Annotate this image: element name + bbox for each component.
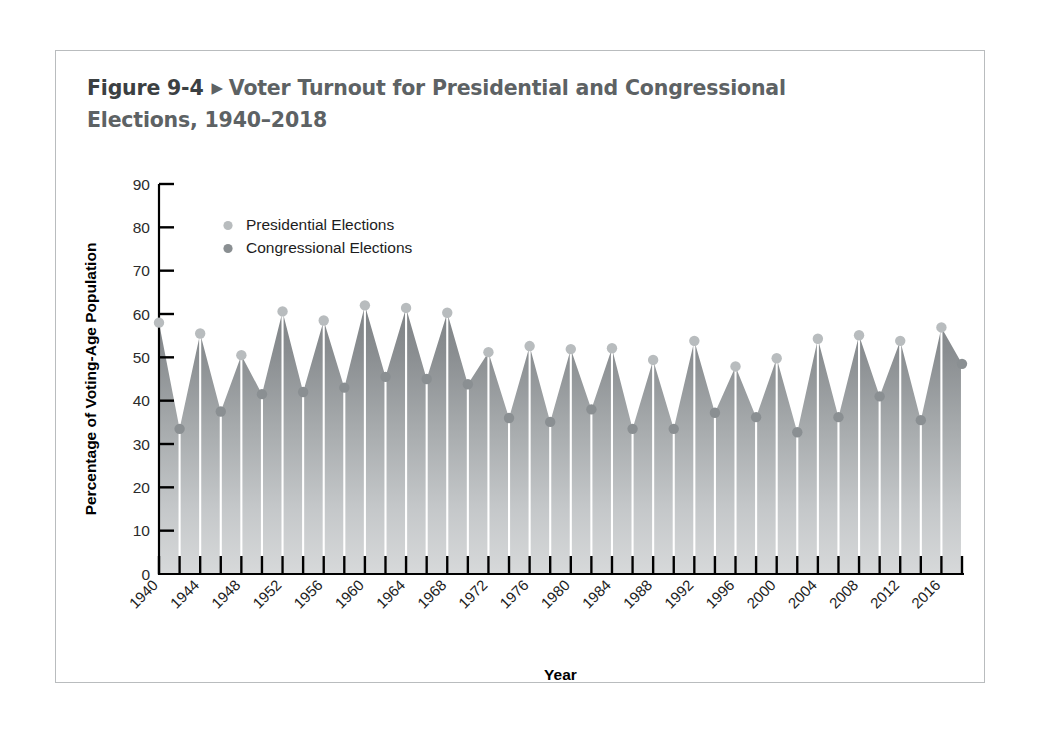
y-tick-label: 30: [133, 436, 151, 453]
presidential-data-point[interactable]: [607, 343, 617, 353]
congressional-data-point[interactable]: [545, 417, 555, 427]
congressional-data-point[interactable]: [874, 391, 884, 401]
y-tick-label: 40: [133, 392, 151, 409]
congressional-data-point[interactable]: [174, 424, 184, 434]
congressional-data-point[interactable]: [380, 372, 390, 382]
x-tick-label: 1988: [620, 576, 656, 612]
congressional-data-point[interactable]: [298, 387, 308, 397]
presidential-data-point[interactable]: [442, 308, 452, 318]
congressional-data-point[interactable]: [339, 382, 349, 392]
presidential-data-point[interactable]: [813, 334, 823, 344]
x-tick-label: 2000: [743, 576, 779, 612]
presidential-data-point[interactable]: [648, 355, 658, 365]
x-tick-label: 1940: [126, 576, 162, 612]
x-tick-label: 1992: [661, 576, 697, 612]
x-tick-label: 1984: [579, 576, 615, 612]
figure-panel: Figure 9-4▶Voter Turnout for Presidentia…: [55, 50, 985, 683]
x-tick-label: 2012: [867, 576, 903, 612]
x-tick-label: 1972: [455, 576, 491, 612]
y-tick-label: 70: [133, 262, 151, 279]
congressional-data-point[interactable]: [833, 412, 843, 422]
congressional-data-point[interactable]: [463, 379, 473, 389]
congressional-data-point[interactable]: [751, 412, 761, 422]
plot-group: 0102030405060708090194019441948195219561…: [82, 176, 967, 684]
presidential-data-point[interactable]: [566, 344, 576, 354]
x-axis-title: Year: [544, 666, 577, 683]
congressional-data-point[interactable]: [957, 359, 967, 369]
congressional-data-point[interactable]: [586, 404, 596, 414]
presidential-data-point[interactable]: [195, 328, 205, 338]
y-tick-label: 10: [133, 522, 151, 539]
presidential-data-point[interactable]: [319, 315, 329, 325]
presidential-data-point[interactable]: [236, 350, 246, 360]
x-tick-label: 1948: [208, 576, 244, 612]
legend-label-congressional: Congressional Elections: [246, 239, 413, 256]
x-tick-label: 1944: [167, 576, 203, 612]
x-tick-label: 1996: [702, 576, 738, 612]
x-tick-label: 1952: [249, 576, 285, 612]
turnout-area-fill: [159, 305, 962, 574]
presidential-data-point[interactable]: [277, 306, 287, 316]
legend-label-presidential: Presidential Elections: [246, 216, 394, 233]
presidential-data-point[interactable]: [360, 300, 370, 310]
presidential-data-point[interactable]: [154, 317, 164, 327]
x-tick-label: 1980: [537, 576, 573, 612]
presidential-data-point[interactable]: [483, 347, 493, 357]
presidential-data-point[interactable]: [854, 330, 864, 340]
x-tick-label: 1960: [331, 576, 367, 612]
congressional-data-point[interactable]: [669, 424, 679, 434]
voter-turnout-chart: 0102030405060708090194019441948195219561…: [56, 51, 986, 684]
congressional-data-point[interactable]: [792, 427, 802, 437]
presidential-data-point[interactable]: [730, 361, 740, 371]
congressional-data-point[interactable]: [421, 374, 431, 384]
x-tick-label: 2016: [908, 576, 944, 612]
y-tick-label: 60: [133, 306, 151, 323]
y-tick-label: 90: [133, 176, 151, 193]
congressional-data-point[interactable]: [710, 408, 720, 418]
y-tick-label: 20: [133, 479, 151, 496]
presidential-data-point[interactable]: [401, 303, 411, 313]
congressional-data-point[interactable]: [504, 413, 514, 423]
x-tick-label: 1964: [373, 576, 409, 612]
congressional-data-point[interactable]: [257, 389, 267, 399]
x-tick-label: 1976: [496, 576, 532, 612]
legend-marker-congressional: [223, 244, 232, 253]
presidential-data-point[interactable]: [524, 341, 534, 351]
congressional-data-point[interactable]: [216, 406, 226, 416]
chart-container: 0102030405060708090194019441948195219561…: [56, 51, 986, 684]
presidential-data-point[interactable]: [771, 353, 781, 363]
presidential-data-point[interactable]: [689, 336, 699, 346]
presidential-data-point[interactable]: [936, 322, 946, 332]
x-tick-label: 1968: [414, 576, 450, 612]
x-tick-label: 2004: [784, 576, 820, 612]
x-tick-label: 2008: [826, 576, 862, 612]
presidential-data-point[interactable]: [895, 336, 905, 346]
y-tick-label: 50: [133, 349, 151, 366]
legend-marker-presidential: [223, 221, 232, 230]
y-tick-label: 80: [133, 219, 151, 236]
congressional-data-point[interactable]: [627, 424, 637, 434]
x-tick-label: 1956: [290, 576, 326, 612]
congressional-data-point[interactable]: [916, 415, 926, 425]
y-axis-title: Percentage of Voting-Age Population: [82, 243, 99, 516]
